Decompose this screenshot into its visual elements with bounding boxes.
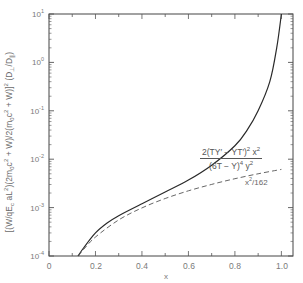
x-tick-label: 0 — [47, 261, 52, 271]
y-tick-label: 10-3 — [22, 202, 44, 213]
axis-ticks — [49, 14, 293, 256]
plot-frame — [49, 14, 293, 256]
x-axis-label: x — [164, 272, 168, 281]
y-tick-label: 10-2 — [22, 153, 44, 164]
x-tick-label: 0.4 — [136, 261, 148, 271]
y-tick-label: 10-4 — [22, 250, 44, 261]
x-tick-label: 0.8 — [229, 261, 241, 271]
y-tick-label: 10-1 — [22, 105, 44, 116]
dashed-curve-annotation: x2/162 — [245, 176, 268, 187]
x-tick-label: 1.0 — [276, 261, 288, 271]
annotation-numerator: 2(TY′ − YT′)2 x2 — [200, 146, 262, 159]
y-axis-label: [(W/qEc aL2)(2m0c2 + W)/2(m0c2 + W)]2 (D… — [3, 51, 15, 231]
annotation-denominator: (6T − Y)4 y2 — [200, 159, 262, 171]
solid-curve — [78, 14, 281, 256]
y-axis-label-container: [(W/qEc aL2)(2m0c2 + W)/2(m0c2 + W)]2 (D… — [2, 0, 16, 283]
chart-canvas — [0, 0, 303, 283]
y-tick-label: 101 — [22, 8, 44, 19]
x-tick-label: 0.2 — [90, 261, 102, 271]
y-tick-label: 100 — [22, 56, 44, 67]
x-tick-label: 0.6 — [183, 261, 195, 271]
solid-curve-annotation: 2(TY′ − YT′)2 x2 (6T − Y)4 y2 — [200, 146, 262, 171]
